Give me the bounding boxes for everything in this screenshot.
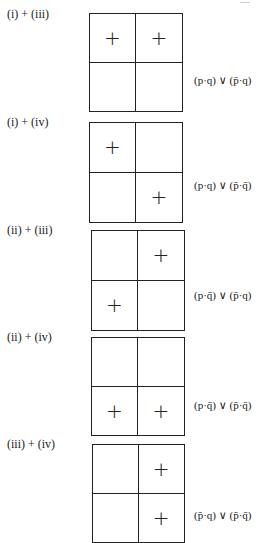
- formula: (p·q) ∨ (p̄·q): [194, 74, 252, 87]
- diagram-label: (i) + (iii): [7, 7, 49, 22]
- grid-cell: +: [139, 445, 185, 494]
- truth-grid: + +: [89, 122, 183, 223]
- grid-cell: +: [92, 387, 138, 436]
- grid-cell: +: [90, 14, 136, 63]
- grid-cell: +: [138, 231, 184, 281]
- diagram-label: (ii) + (iv): [7, 330, 52, 345]
- grid-cell: +: [136, 173, 182, 223]
- grid-cell: +: [138, 387, 184, 436]
- grid-cell: +: [139, 494, 185, 543]
- grid-cell: [92, 231, 138, 281]
- grid-cell: [90, 173, 136, 223]
- formula: (p·q) ∨ (p̄·q̄): [194, 179, 252, 192]
- truth-grid: + +: [91, 230, 185, 331]
- grid-cell: [138, 281, 184, 331]
- grid-cell: [136, 123, 182, 173]
- grid-cell: +: [90, 123, 136, 173]
- grid-cell: [136, 63, 182, 112]
- truth-grid: + +: [91, 337, 185, 436]
- diagram-label: (i) + (iv): [7, 115, 48, 130]
- grid-cell: +: [136, 14, 182, 63]
- truth-grid: + +: [92, 444, 185, 543]
- grid-cell: [90, 63, 136, 112]
- grid-cell: +: [92, 281, 138, 331]
- grid-cell: [138, 338, 184, 387]
- cropped-text-fragment: [240, 0, 250, 3]
- grid-cell: [92, 338, 138, 387]
- formula: (p̄·q) ∨ (p̄·q̄): [194, 509, 252, 522]
- diagram-label: (iii) + (iv): [7, 437, 55, 452]
- formula: (p·q̄) ∨ (p̄·q̄): [194, 399, 252, 412]
- grid-cell: [93, 445, 139, 494]
- formula: (p·q̄) ∨ (p̄·q): [194, 289, 252, 302]
- diagram-label: (ii) + (iii): [7, 223, 52, 238]
- truth-grid: + +: [89, 13, 183, 112]
- grid-cell: [93, 494, 139, 543]
